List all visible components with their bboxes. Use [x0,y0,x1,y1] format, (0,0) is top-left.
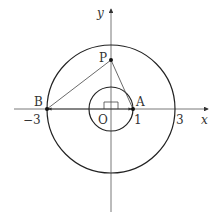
label-A: A [135,95,145,109]
tick-label-3: 3 [176,113,184,127]
label-P: P [99,51,107,65]
tick-label-1: 1 [134,113,142,127]
label-y-axis: y [96,6,104,20]
tick-label-neg3: −3 [23,113,41,127]
label-origin: O [98,113,108,127]
point-P [109,58,113,62]
point-A [131,107,135,111]
diagram: y x P A B O −3 1 3 [0,0,219,221]
label-x-axis: x [201,113,208,127]
point-B [45,107,49,111]
segment-PB [47,60,111,109]
label-B: B [34,95,43,109]
